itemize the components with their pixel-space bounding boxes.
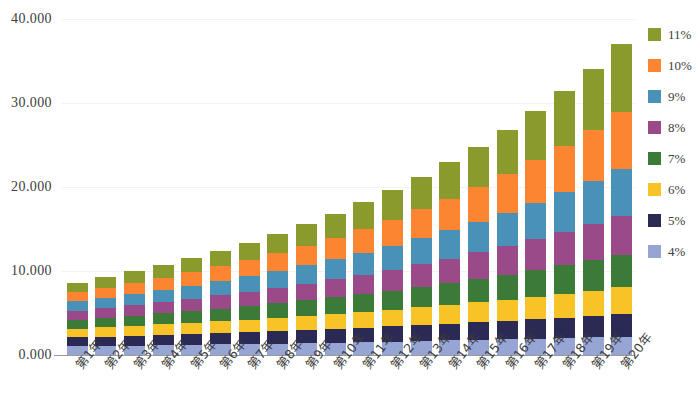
bar-segment[interactable] [439,230,460,258]
bar-segment[interactable] [67,329,88,338]
bar-segment[interactable] [267,253,288,271]
bar-segment[interactable] [525,297,546,320]
bar[interactable] [267,234,288,355]
bar-segment[interactable] [554,146,575,193]
legend-item[interactable]: 6% [648,174,699,205]
bar-segment[interactable] [382,310,403,327]
bar-segment[interactable] [411,287,432,307]
bar-segment[interactable] [583,181,604,224]
bar-segment[interactable] [611,44,632,112]
bar-segment[interactable] [583,69,604,130]
bar-segment[interactable] [325,259,346,279]
bar-segment[interactable] [611,169,632,216]
bar-segment[interactable] [181,272,202,286]
bar-segment[interactable] [124,326,145,336]
bar[interactable] [296,224,317,355]
bar-segment[interactable] [124,271,145,282]
bar-segment[interactable] [525,160,546,202]
bar-segment[interactable] [296,284,317,301]
bar-segment[interactable] [181,299,202,311]
bar-segment[interactable] [296,246,317,266]
bar-segment[interactable] [210,309,231,322]
bar-segment[interactable] [583,224,604,260]
bar-segment[interactable] [67,292,88,301]
bar-segment[interactable] [525,203,546,239]
bar-segment[interactable] [353,202,374,228]
bar-segment[interactable] [267,234,288,253]
bar-segment[interactable] [210,266,231,281]
bar-segment[interactable] [210,281,231,295]
bar-segment[interactable] [382,270,403,291]
bar-segment[interactable] [468,302,489,322]
bar-segment[interactable] [181,286,202,299]
bar-segment[interactable] [583,260,604,290]
bar-segment[interactable] [95,308,116,318]
bar[interactable] [497,130,518,355]
bar-segment[interactable] [382,246,403,270]
legend-item[interactable]: 10% [648,50,699,81]
bar-segment[interactable] [325,279,346,297]
bar-segment[interactable] [95,288,116,298]
bar-segment[interactable] [439,259,460,284]
bar-segment[interactable] [439,199,460,231]
legend-item[interactable]: 4% [648,236,699,267]
bar[interactable] [439,162,460,355]
bar-segment[interactable] [239,243,260,260]
bar-segment[interactable] [497,130,518,175]
bar[interactable] [239,243,260,356]
bar-segment[interactable] [497,275,518,300]
bar-segment[interactable] [468,187,489,222]
bar-segment[interactable] [210,321,231,333]
legend-item[interactable]: 11% [648,19,699,50]
bar-segment[interactable] [239,320,260,333]
bar-segment[interactable] [411,209,432,238]
bar-segment[interactable] [439,283,460,305]
bar-segment[interactable] [611,216,632,255]
bar-segment[interactable] [95,298,116,308]
bar-segment[interactable] [124,283,145,294]
bar[interactable] [325,214,346,355]
bar-segment[interactable] [267,303,288,317]
bar-segment[interactable] [583,291,604,316]
bar[interactable] [583,69,604,355]
bar-segment[interactable] [468,147,489,187]
bar-segment[interactable] [497,300,518,321]
bar-segment[interactable] [497,174,518,213]
bar-segment[interactable] [124,316,145,326]
bar[interactable] [525,111,546,355]
bar-segment[interactable] [267,271,288,288]
bar-segment[interactable] [181,311,202,323]
bar-segment[interactable] [353,229,374,253]
bar-segment[interactable] [325,214,346,238]
bar-segment[interactable] [554,265,575,293]
bar-segment[interactable] [468,222,489,253]
bar-segment[interactable] [239,306,260,319]
bar-segment[interactable] [95,277,116,287]
bar-segment[interactable] [153,265,174,278]
bar-segment[interactable] [153,278,174,290]
bar-segment[interactable] [439,162,460,198]
bar-segment[interactable] [67,301,88,310]
bar-segment[interactable] [153,290,174,302]
bar-segment[interactable] [296,224,317,245]
bar-segment[interactable] [153,313,174,324]
bar-segment[interactable] [181,258,202,272]
bar[interactable] [554,91,575,355]
bar-segment[interactable] [239,260,260,276]
bar-segment[interactable] [67,283,88,292]
bar-segment[interactable] [411,177,432,210]
bar-segment[interactable] [411,238,432,264]
bar-segment[interactable] [210,251,231,267]
bar-segment[interactable] [181,323,202,334]
bar-segment[interactable] [267,318,288,331]
legend-item[interactable]: 5% [648,205,699,236]
bar-segment[interactable] [239,276,260,291]
bar-segment[interactable] [353,312,374,328]
legend-item[interactable]: 9% [648,81,699,112]
bar-segment[interactable] [554,192,575,232]
bar[interactable] [411,177,432,355]
bar-segment[interactable] [411,307,432,325]
bar-segment[interactable] [353,275,374,295]
bar-segment[interactable] [239,292,260,306]
bar[interactable] [611,44,632,355]
